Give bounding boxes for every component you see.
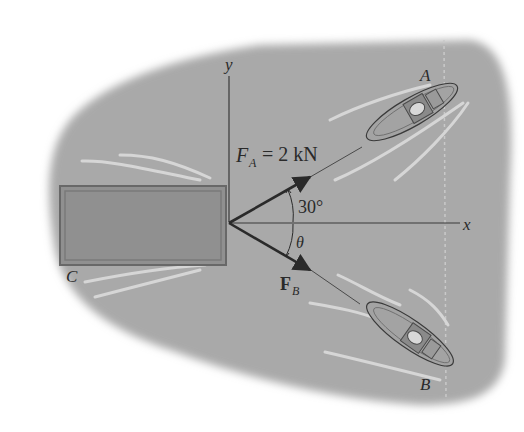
force-b-symbol: F [280,274,291,294]
force-a-value: = 2 kN [262,143,318,165]
boat-a-label: A [419,66,431,85]
barge-c [60,186,226,265]
force-a-symbol: F [235,144,249,166]
x-axis-label: x [462,215,471,234]
diagram-canvas: y x C A B F A = 2 kN 30° θ F B [0,0,524,432]
force-b-subscript: B [292,284,300,298]
angle-a-label: 30° [298,197,323,217]
force-a-subscript: A [248,156,257,170]
angle-theta-label: θ [296,234,304,251]
boat-b-label: B [420,375,431,394]
y-axis-label: y [223,55,233,74]
barge-label: C [66,267,78,286]
